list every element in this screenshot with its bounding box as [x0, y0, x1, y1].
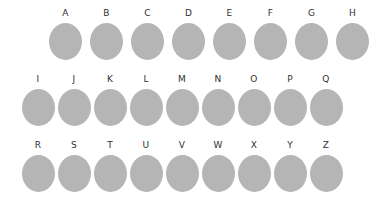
ellipse-icon [90, 23, 123, 60]
labeled-ellipse-c[interactable]: C [127, 8, 168, 60]
ellipse-label: C [144, 8, 150, 19]
ellipse-label: J [73, 74, 76, 85]
ellipse-label: X [251, 140, 257, 151]
ellipse-icon [295, 23, 328, 60]
ellipse-icon [310, 89, 343, 126]
labeled-ellipse-e[interactable]: E [209, 8, 250, 60]
ellipse-label: T [107, 140, 113, 151]
ellipse-label: H [349, 8, 356, 19]
ellipse-label: W [213, 140, 222, 151]
labeled-ellipse-k[interactable]: K [92, 74, 128, 126]
ellipse-icon [172, 23, 205, 60]
ellipse-icon [58, 89, 91, 126]
labeled-ellipse-m[interactable]: M [164, 74, 200, 126]
ellipse-icon [22, 89, 55, 126]
ellipse-label: M [178, 74, 186, 85]
ellipse-row-2: I J K L M N O P [20, 74, 344, 126]
ellipse-icon [202, 89, 235, 126]
labeled-ellipse-o[interactable]: O [236, 74, 272, 126]
labeled-ellipse-t[interactable]: T [92, 140, 128, 192]
ellipse-label: P [287, 74, 293, 85]
ellipse-row-3: R S T U V W X Y [20, 140, 344, 192]
labeled-ellipse-w[interactable]: W [200, 140, 236, 192]
ellipse-label: S [71, 140, 77, 151]
labeled-ellipse-b[interactable]: B [86, 8, 127, 60]
labeled-ellipse-z[interactable]: Z [308, 140, 344, 192]
labeled-ellipse-r[interactable]: R [20, 140, 56, 192]
ellipse-icon [22, 155, 55, 192]
ellipse-label: V [179, 140, 185, 151]
ellipse-row-1: A B C D E F G H [45, 8, 373, 60]
ellipse-label: R [35, 140, 41, 151]
ellipse-label: N [215, 74, 222, 85]
ellipse-icon [202, 155, 235, 192]
ellipse-icon [274, 89, 307, 126]
ellipse-icon [131, 23, 164, 60]
labeled-ellipse-j[interactable]: J [56, 74, 92, 126]
ellipse-icon [238, 155, 271, 192]
ellipse-label: L [143, 74, 148, 85]
ellipse-icon [49, 23, 82, 60]
ellipse-icon [166, 89, 199, 126]
ellipse-icon [336, 23, 369, 60]
ellipse-icon [94, 89, 127, 126]
labeled-ellipse-i[interactable]: I [20, 74, 56, 126]
ellipse-label: E [227, 8, 233, 19]
labeled-ellipse-y[interactable]: Y [272, 140, 308, 192]
labeled-ellipse-v[interactable]: V [164, 140, 200, 192]
labeled-ellipse-p[interactable]: P [272, 74, 308, 126]
ellipse-label: I [37, 74, 40, 85]
labeled-ellipse-u[interactable]: U [128, 140, 164, 192]
ellipse-icon [94, 155, 127, 192]
ellipse-icon [130, 89, 163, 126]
ellipse-label: F [268, 8, 273, 19]
ellipse-icon [130, 155, 163, 192]
labeled-ellipse-a[interactable]: A [45, 8, 86, 60]
ellipse-icon [274, 155, 307, 192]
ellipse-label: Q [322, 74, 329, 85]
ellipse-label: D [185, 8, 192, 19]
ellipse-icon [166, 155, 199, 192]
labeled-ellipse-x[interactable]: X [236, 140, 272, 192]
ellipse-label: G [308, 8, 315, 19]
ellipse-icon [238, 89, 271, 126]
ellipse-label: O [250, 74, 257, 85]
ellipse-label: K [107, 74, 113, 85]
labeled-ellipse-n[interactable]: N [200, 74, 236, 126]
ellipse-label: Z [323, 140, 329, 151]
ellipse-icon [213, 23, 246, 60]
labeled-ellipse-s[interactable]: S [56, 140, 92, 192]
ellipse-label: Y [287, 140, 293, 151]
labeled-ellipse-f[interactable]: F [250, 8, 291, 60]
ellipse-icon [58, 155, 91, 192]
labeled-ellipse-q[interactable]: Q [308, 74, 344, 126]
ellipse-label: U [143, 140, 150, 151]
labeled-ellipse-l[interactable]: L [128, 74, 164, 126]
labeled-ellipse-h[interactable]: H [332, 8, 373, 60]
ellipse-icon [254, 23, 287, 60]
ellipse-icon [310, 155, 343, 192]
ellipse-label: A [62, 8, 68, 19]
ellipse-label: B [103, 8, 109, 19]
labeled-ellipse-g[interactable]: G [291, 8, 332, 60]
labeled-ellipse-d[interactable]: D [168, 8, 209, 60]
